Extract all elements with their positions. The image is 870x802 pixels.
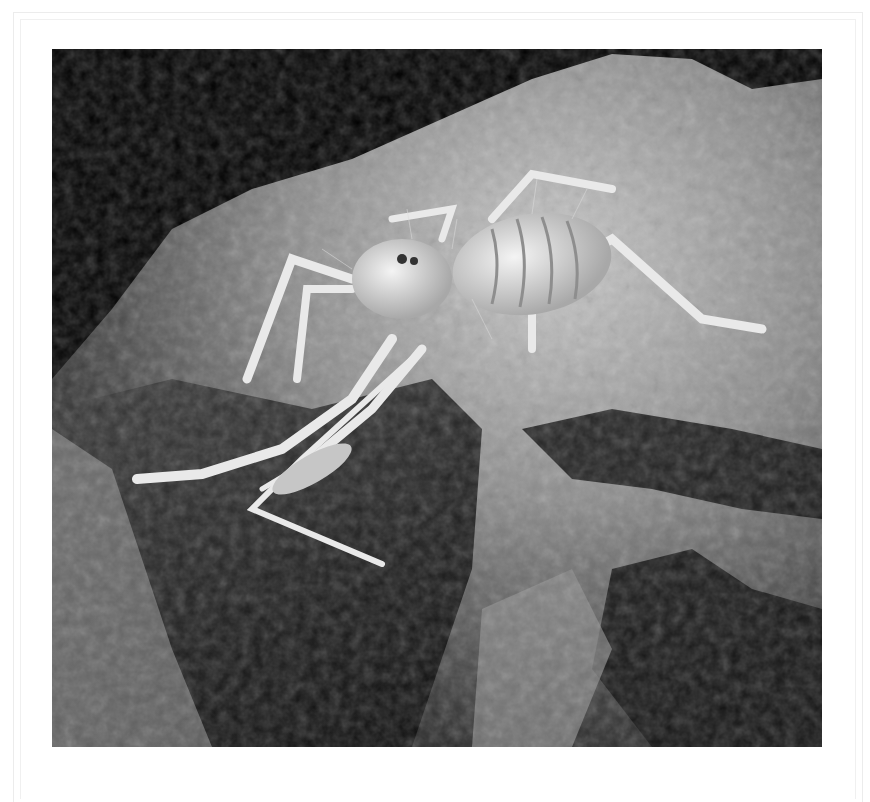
spider-head [352, 239, 452, 319]
camel-spider-photo [52, 49, 822, 747]
photograph: Pale, hairy camel spider crawling across… [52, 49, 822, 747]
